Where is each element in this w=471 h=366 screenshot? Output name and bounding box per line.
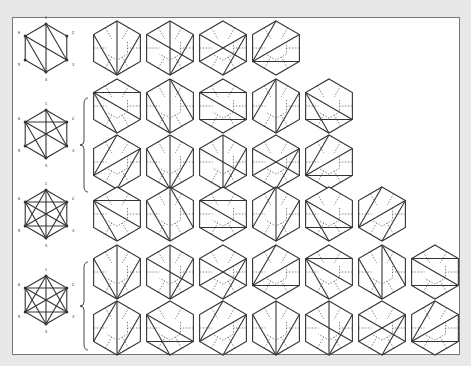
vertex-label: 4 [45, 163, 48, 168]
vertex-label: 6 [18, 30, 21, 35]
triangulation-hexagon [359, 245, 406, 299]
vertex-label: 1 [45, 15, 48, 20]
vertex-label: 4 [45, 243, 48, 248]
grouping-brace [80, 98, 88, 192]
grouping-brace [80, 262, 88, 350]
vertex-label: 2 [72, 30, 75, 35]
triangulation-hexagon [306, 135, 353, 189]
triangulation-hexagon [306, 245, 353, 299]
vertex-label: 5 [18, 148, 21, 153]
triangulation-hexagon [94, 79, 141, 133]
vertex-label: 3 [72, 148, 75, 153]
triangulation-hexagon [200, 245, 247, 299]
triangulation-hexagon [253, 135, 300, 189]
triangulation-hexagon [253, 245, 300, 299]
vertex-label: 4 [45, 77, 48, 82]
triangulation-hexagon [147, 187, 194, 241]
triangulation-hexagon [359, 301, 406, 355]
vertex-label: 6 [18, 282, 21, 287]
triangulation-hexagon [94, 301, 141, 355]
triangulation-hexagon [94, 187, 141, 241]
vertex-label: 1 [45, 181, 48, 186]
triangulation-hexagon [253, 21, 300, 75]
triangulation-hexagon [306, 301, 353, 355]
reference-hexagon-group-4: 123456 [18, 267, 75, 334]
triangulation-hexagon [253, 187, 300, 241]
triangulation-hexagon [94, 135, 141, 189]
triangulation-hexagon [200, 79, 247, 133]
triangulation-hexagon [253, 79, 300, 133]
triangulation-hexagon [306, 79, 353, 133]
vertex-label: 3 [72, 228, 75, 233]
vertex-label: 2 [72, 282, 75, 287]
triangulation-hexagon [359, 187, 406, 241]
triangulation-hexagon [94, 245, 141, 299]
reference-hexagon-group-2: 123456 [18, 101, 75, 168]
vertex-label: 1 [45, 267, 48, 272]
triangulation-hexagon [412, 301, 459, 355]
triangulation-hexagon [200, 187, 247, 241]
triangulation-hexagon [306, 187, 353, 241]
hexagon-triangulations-diagram: 123456123456123456123456 [0, 0, 471, 366]
triangulation-hexagon [200, 135, 247, 189]
triangulation-hexagon [147, 301, 194, 355]
triangulation-hexagon [147, 21, 194, 75]
triangulation-hexagon [253, 301, 300, 355]
triangulation-hexagon [200, 21, 247, 75]
vertex-label: 6 [18, 196, 21, 201]
triangulation-hexagon [147, 135, 194, 189]
reference-hexagon-group-3: 123456 [18, 181, 75, 248]
triangulation-hexagon [147, 79, 194, 133]
vertex-label: 5 [18, 314, 21, 319]
triangulation-hexagon [94, 21, 141, 75]
triangulation-hexagon [147, 245, 194, 299]
vertex-label: 6 [18, 116, 21, 121]
triangulation-hexagon [200, 301, 247, 355]
vertex-label: 2 [72, 196, 75, 201]
vertex-label: 4 [45, 329, 48, 334]
vertex-label: 5 [18, 62, 21, 67]
vertex-label: 3 [72, 314, 75, 319]
vertex-label: 5 [18, 228, 21, 233]
triangulation-hexagon [412, 245, 459, 299]
reference-hexagon-group-1: 123456 [18, 15, 75, 82]
vertex-label: 3 [72, 62, 75, 67]
vertex-label: 1 [45, 101, 48, 106]
vertex-label: 2 [72, 116, 75, 121]
